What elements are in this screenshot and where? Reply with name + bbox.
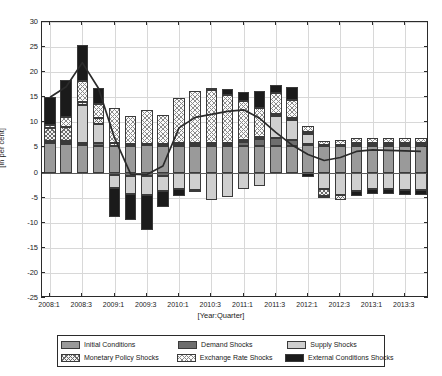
y-tick-label: -5 (31, 192, 38, 201)
x-tick-label: 2009:3 (135, 301, 156, 308)
chart-legend: Initial ConditionsDemand ShocksSupply Sh… (57, 335, 385, 367)
x-tick-label: 2012:1 (296, 301, 317, 308)
x-tick-label: 2011:1 (232, 301, 253, 308)
y-tick-label: -10 (27, 217, 38, 226)
x-tick-label: 2010:3 (200, 301, 221, 308)
x-tick-label: 2008:1 (38, 301, 59, 308)
legend-row: Initial ConditionsDemand ShocksSupply Sh… (61, 338, 381, 351)
legend-label: External Conditions Shocks (308, 354, 394, 361)
y-tick-mark (424, 297, 428, 298)
legend-swatch-monetary-icon (61, 354, 80, 362)
legend-label: Supply Shocks (310, 341, 356, 348)
legend-swatch-supply-icon (287, 341, 306, 349)
y-tick-label: -15 (27, 242, 38, 251)
legend-entry-supply[interactable]: Supply Shocks (287, 341, 381, 349)
legend-label: Monetary Policy Shocks (84, 354, 159, 361)
x-tick-label: 2008:3 (71, 301, 92, 308)
x-axis-title: [Year:Quarter] (0, 311, 442, 320)
y-tick-label: 10 (30, 117, 38, 126)
y-tick-mark (41, 297, 45, 298)
x-tick-label: 2013:3 (393, 301, 414, 308)
legend-label: Exchange Rate Shocks (200, 354, 273, 361)
legend-swatch-exchange-icon (177, 354, 196, 362)
x-tick-label: 2011:3 (264, 301, 285, 308)
chart-figure: [In per cent] -25-20-15-10-5051015202530… (0, 0, 442, 376)
y-tick-label: 25 (30, 42, 38, 51)
legend-entry-external[interactable]: External Conditions Shocks (285, 354, 381, 362)
y-tick-label: 5 (34, 142, 38, 151)
y-tick-label: 15 (30, 92, 38, 101)
legend-label: Demand Shocks (201, 341, 252, 348)
y-tick-label: 0 (34, 167, 38, 176)
x-tick-label: 2013:1 (361, 301, 382, 308)
y-tick-label: -20 (27, 267, 38, 276)
inflation-line (42, 22, 428, 297)
y-tick-label: -25 (27, 293, 38, 302)
y-tick-label: 20 (30, 67, 38, 76)
legend-label: Initial Conditions (84, 341, 135, 348)
x-tick-label: 2012:3 (329, 301, 350, 308)
y-tick-label: 30 (30, 17, 38, 26)
line-series-path (50, 63, 421, 175)
legend-swatch-demand-icon (178, 341, 197, 349)
y-axis-title: [In per cent] (0, 128, 6, 168)
x-tick-label: 2010:1 (167, 301, 188, 308)
legend-swatch-external-icon (285, 354, 304, 362)
legend-row: Monetary Policy ShocksExchange Rate Shoc… (61, 351, 381, 364)
plot-area (41, 21, 428, 297)
legend-entry-initial[interactable]: Initial Conditions (61, 341, 178, 349)
legend-entry-exchange[interactable]: Exchange Rate Shocks (177, 354, 285, 362)
legend-swatch-initial-icon (61, 341, 80, 349)
legend-entry-demand[interactable]: Demand Shocks (178, 341, 287, 349)
legend-entry-monetary[interactable]: Monetary Policy Shocks (61, 354, 177, 362)
x-tick-label: 2009:1 (103, 301, 124, 308)
